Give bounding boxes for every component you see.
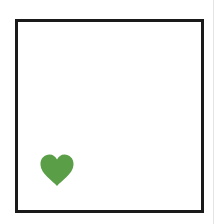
- heart-shape: [39, 153, 75, 187]
- divider: [213, 0, 214, 224]
- game-stage: [0, 0, 216, 224]
- heart-icon[interactable]: [39, 153, 75, 187]
- game-board[interactable]: [15, 19, 204, 213]
